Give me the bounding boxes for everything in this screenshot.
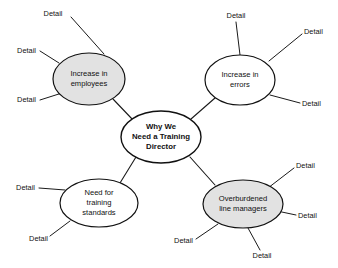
connector-center-to-errors	[191, 98, 215, 119]
node-increase-in-errors[interactable]: Increase inerrors	[205, 55, 275, 105]
spoke-increase-in-errors-1	[236, 22, 240, 55]
connector-center-to-employees	[113, 99, 133, 120]
node-label-need-for-training-standards-line3: standards	[82, 208, 116, 217]
node-label-increase-in-employees-line2: employees	[71, 79, 108, 88]
detail-label-increase-in-employees-3[interactable]: Detail	[17, 95, 36, 104]
nodes-layer: Increase inemployeesIncrease inerrorsNee…	[53, 53, 283, 228]
spoke-overburdened-line-managers-3	[196, 224, 218, 239]
node-label-center-line3: Director	[146, 142, 176, 151]
node-overburdened-line-managers[interactable]: Overburdenedline managers	[203, 180, 283, 228]
detail-label-overburdened-line-managers-3[interactable]: Detail	[174, 236, 193, 245]
spoke-need-for-training-standards-2	[50, 221, 70, 236]
mind-map-canvas: Increase inemployeesIncrease inerrorsNee…	[0, 0, 338, 268]
spoke-need-for-training-standards-1	[39, 188, 65, 190]
spoke-overburdened-line-managers-4	[248, 228, 260, 250]
node-label-increase-in-errors-line1: Increase in	[221, 70, 258, 79]
spoke-increase-in-employees-2	[40, 51, 59, 63]
node-label-overburdened-line-managers-line1: Overburdened	[219, 194, 268, 203]
node-label-need-for-training-standards-line1: Need for	[84, 188, 114, 197]
spoke-increase-in-errors-3	[270, 95, 300, 103]
connector-center-to-standards	[120, 157, 136, 183]
detail-label-increase-in-errors-1[interactable]: Detail	[227, 11, 246, 20]
detail-label-increase-in-errors-2[interactable]: Detail	[304, 27, 323, 36]
spoke-increase-in-employees-3	[40, 93, 62, 100]
detail-label-increase-in-errors-3[interactable]: Detail	[302, 99, 321, 108]
spoke-increase-in-errors-2	[269, 34, 302, 61]
spoke-overburdened-line-managers-1	[268, 168, 294, 188]
node-label-overburdened-line-managers-line2: line managers	[219, 204, 267, 213]
connector-center-to-managers	[190, 157, 215, 185]
detail-label-increase-in-employees-2[interactable]: Detail	[17, 46, 36, 55]
node-label-need-for-training-standards-line2: training	[87, 198, 112, 207]
node-label-increase-in-employees-line1: Increase in	[70, 69, 107, 78]
spoke-increase-in-employees-1	[71, 17, 104, 54]
node-need-for-training-standards[interactable]: Need fortrainingstandards	[60, 179, 138, 227]
mind-map-diagram: Increase inemployeesIncrease inerrorsNee…	[0, 0, 338, 268]
node-center[interactable]: Why WeNeed a TrainingDirector	[121, 111, 201, 163]
detail-label-need-for-training-standards-1[interactable]: Detail	[16, 183, 35, 192]
node-increase-in-employees[interactable]: Increase inemployees	[53, 53, 125, 105]
detail-label-overburdened-line-managers-2[interactable]: Detail	[298, 211, 317, 220]
detail-label-need-for-training-standards-2[interactable]: Detail	[29, 234, 48, 243]
detail-label-overburdened-line-managers-4[interactable]: Detail	[253, 251, 272, 260]
detail-label-overburdened-line-managers-1[interactable]: Detail	[296, 161, 315, 170]
node-label-increase-in-errors-line2: errors	[230, 80, 250, 89]
node-label-center-line1: Why We	[146, 122, 177, 131]
node-label-center-line2: Need a Training	[132, 132, 190, 141]
detail-label-increase-in-employees-1[interactable]: Detail	[44, 9, 63, 18]
